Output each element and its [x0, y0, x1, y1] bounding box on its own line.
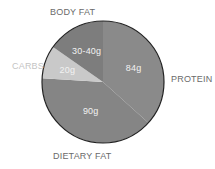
outer-label-protein: PROTEIN — [171, 74, 212, 84]
outer-label-carbs: CARBS — [12, 61, 44, 71]
outer-label-dietary-fat: DIETARY FAT — [53, 151, 112, 161]
slice-value-label: 84g — [126, 63, 142, 73]
slice-value-label: 30-40g — [72, 46, 101, 56]
slice-value-label: 90g — [83, 106, 99, 116]
pie-chart: 84g90g20g30-40g BODY FAT CARBS PROTEIN D… — [0, 0, 215, 169]
slice-value-label: 20g — [59, 65, 75, 75]
outer-label-body-fat: BODY FAT — [50, 7, 96, 17]
